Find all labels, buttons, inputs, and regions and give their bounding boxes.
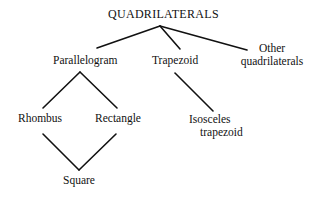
node-other-line1: Other xyxy=(237,42,307,55)
node-isosceles-line1: Isosceles xyxy=(189,113,243,126)
edge-trapezoid-isosceles xyxy=(175,73,213,111)
edge-parallelogram-rhombus xyxy=(43,72,80,108)
node-isosceles-trapezoid: Isosceles trapezoid xyxy=(189,113,243,139)
node-square: Square xyxy=(63,174,95,187)
node-quadrilaterals: QUADRILATERALS xyxy=(108,8,219,21)
node-rhombus: Rhombus xyxy=(18,112,62,125)
edge-rhombus-square xyxy=(43,134,79,170)
node-isosceles-line2: trapezoid xyxy=(189,126,243,139)
edge-root-other xyxy=(160,26,247,50)
node-other-quadrilaterals: Other quadrilaterals xyxy=(237,42,307,68)
node-trapezoid: Trapezoid xyxy=(152,54,198,67)
edge-root-parallelogram xyxy=(97,26,160,48)
connector-lines xyxy=(0,0,316,197)
node-rectangle: Rectangle xyxy=(95,112,141,125)
edge-parallelogram-rectangle xyxy=(80,72,117,108)
node-parallelogram: Parallelogram xyxy=(53,54,118,67)
edge-rectangle-square xyxy=(79,134,116,170)
node-other-line2: quadrilaterals xyxy=(237,55,307,68)
